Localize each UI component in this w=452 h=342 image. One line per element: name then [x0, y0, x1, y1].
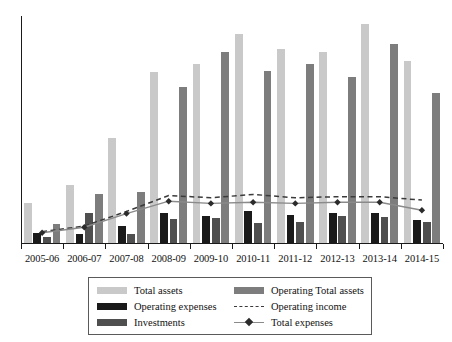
- x-axis-tick: [190, 244, 191, 249]
- x-axis-tick: [21, 244, 22, 249]
- legend-label-total-expenses: Total expenses: [271, 316, 333, 329]
- legend-label-operating-total-assets: Operating Total assets: [271, 284, 364, 297]
- x-axis-tick: [232, 244, 233, 249]
- legend-label-total-assets: Total assets: [134, 284, 183, 297]
- x-axis-tick: [401, 244, 402, 249]
- diamond-marker-icon: [245, 318, 253, 326]
- legend-item-total-expenses: Total expenses: [234, 314, 365, 330]
- legend-item-total-assets: Total assets: [97, 282, 234, 298]
- legend-row: Total assets Operating Total assets: [97, 282, 365, 298]
- x-ticks-layer: [21, 16, 443, 244]
- legend-swatch-operating-expenses: [97, 303, 127, 310]
- legend-item-operating-expenses: Operating expenses: [97, 298, 234, 314]
- x-axis-tick: [274, 244, 275, 249]
- plot-area: [21, 16, 443, 244]
- legend-row: Operating expenses Operating income: [97, 298, 365, 314]
- legend-row: Investments Total expenses: [97, 314, 365, 330]
- x-axis-tick: [105, 244, 106, 249]
- legend-label-operating-expenses: Operating expenses: [134, 300, 217, 313]
- legend-label-investments: Investments: [134, 316, 185, 329]
- legend-label-operating-income: Operating income: [271, 300, 347, 313]
- x-axis-label-2014-15: 2014-15: [397, 252, 447, 265]
- legend-item-operating-total-assets: Operating Total assets: [234, 282, 365, 298]
- legend-swatch-investments: [97, 319, 127, 326]
- x-axis-tick: [443, 244, 444, 249]
- x-axis-tick: [148, 244, 149, 249]
- legend-swatch-operating-total-assets: [234, 287, 264, 294]
- x-axis-tick: [316, 244, 317, 249]
- legend-marker-line-icon: [234, 318, 264, 327]
- chart-legend: Total assets Operating Total assets Oper…: [88, 277, 372, 335]
- legend-item-operating-income: Operating income: [234, 298, 365, 314]
- x-axis-tick-labels: 2005-062006-072007-082008-092009-102010-…: [21, 252, 443, 268]
- chart-figure: 2005-062006-072007-082008-092009-102010-…: [0, 0, 452, 342]
- x-axis-tick: [63, 244, 64, 249]
- x-axis-tick: [359, 244, 360, 249]
- legend-item-investments: Investments: [97, 314, 234, 330]
- legend-swatch-total-assets: [97, 287, 127, 294]
- legend-dashed-line-icon: [234, 302, 264, 311]
